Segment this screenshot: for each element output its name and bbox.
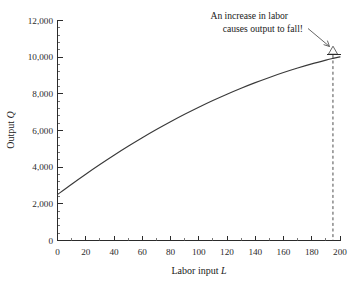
x-tick-label: 20 bbox=[81, 247, 91, 257]
y-tick-label: 8,000 bbox=[32, 89, 53, 99]
y-axis-title-symbol: Q bbox=[5, 110, 16, 118]
x-tick-label: 80 bbox=[166, 247, 176, 257]
annotation-line-2: causes output to fall! bbox=[223, 23, 303, 34]
y-axis-title: Output Q bbox=[5, 110, 16, 148]
y-axis-title-text: Output bbox=[5, 118, 16, 148]
x-tick-label: 180 bbox=[305, 247, 319, 257]
x-tick-label: 40 bbox=[109, 247, 119, 257]
x-tick-label: 100 bbox=[192, 247, 206, 257]
y-tick-label: 2,000 bbox=[32, 199, 53, 209]
x-tick-label: 200 bbox=[333, 247, 347, 257]
y-tick-label: 6,000 bbox=[32, 126, 53, 136]
y-tick-label: 10,000 bbox=[28, 52, 54, 62]
y-tick-label: 12,000 bbox=[28, 16, 54, 26]
x-tick-label: 120 bbox=[220, 247, 234, 257]
x-tick-label: 0 bbox=[55, 247, 60, 257]
svg-text:Output Q: Output Q bbox=[5, 110, 16, 148]
annotation-line-1: An increase in labor bbox=[210, 10, 288, 21]
production-function-chart: 12,000 10,000 8,000 6,000 4,000 2,000 0 … bbox=[0, 0, 364, 289]
chart-canvas: 12,000 10,000 8,000 6,000 4,000 2,000 0 … bbox=[0, 0, 364, 289]
x-tick-label: 60 bbox=[138, 247, 148, 257]
x-axis-title-symbol: L bbox=[220, 265, 227, 276]
x-tick-label: 160 bbox=[277, 247, 291, 257]
y-tick-label: 4,000 bbox=[32, 162, 53, 172]
x-axis-title-text: Labor input bbox=[172, 265, 221, 276]
x-axis-title: Labor input L bbox=[172, 265, 227, 276]
y-tick-label: 0 bbox=[48, 236, 53, 246]
x-tick-label: 140 bbox=[248, 247, 262, 257]
